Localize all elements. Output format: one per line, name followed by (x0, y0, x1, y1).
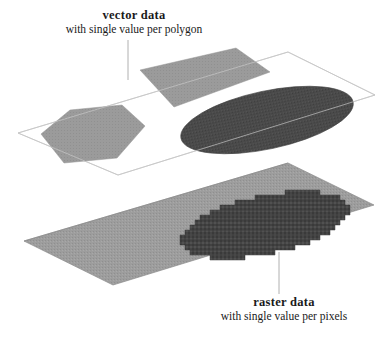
raster-data-label: raster data with single value per pixels (186, 295, 382, 323)
vector-data-label: vector data with single value per polygo… (14, 8, 254, 36)
raster-data-subtitle: with single value per pixels (186, 310, 382, 324)
vector-data-title: vector data (14, 8, 254, 23)
vector-data-subtitle: with single value per polygon (14, 23, 254, 37)
vector-plane-group (18, 48, 375, 175)
diagram-svg (0, 0, 388, 338)
raster-plane-group (24, 163, 374, 285)
raster-data-title: raster data (186, 295, 382, 310)
diagram-canvas: vector data with single value per polygo… (0, 0, 388, 338)
